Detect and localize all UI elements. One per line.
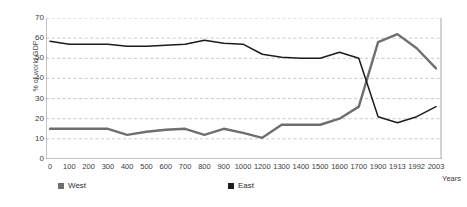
x-tick-label: 1000: [235, 162, 252, 171]
y-tick-label: 50: [22, 54, 44, 62]
legend-label: East: [238, 181, 254, 190]
legend-swatch-icon: [228, 183, 234, 189]
x-tick-label: 1913: [389, 162, 406, 171]
x-tick-label: 800: [198, 162, 211, 171]
legend-item-east[interactable]: East: [228, 181, 254, 190]
x-tick-label: 0: [48, 162, 52, 171]
y-axis-tick-labels: 706050403020100: [18, 0, 44, 207]
x-tick-label: 1500: [312, 162, 329, 171]
plot-area: [46, 18, 442, 159]
x-tick-label: 1900: [370, 162, 387, 171]
chart-legend: WestEast: [58, 181, 388, 195]
y-tick-label: 10: [22, 135, 44, 143]
x-tick-label: 900: [217, 162, 230, 171]
x-tick-label: 300: [102, 162, 115, 171]
y-tick-label: 30: [22, 95, 44, 103]
x-tick-label: 600: [160, 162, 173, 171]
x-tick-label: 1300: [273, 162, 290, 171]
x-tick-label: 200: [82, 162, 95, 171]
y-tick-label: 0: [22, 155, 44, 163]
x-tick-label: 1400: [293, 162, 310, 171]
series-line-east: [50, 40, 436, 123]
x-tick-label: 1992: [408, 162, 425, 171]
x-tick-label: 2003: [428, 162, 445, 171]
y-tick-label: 70: [22, 14, 44, 22]
legend-item-west[interactable]: West: [58, 181, 86, 190]
y-tick-label: 40: [22, 74, 44, 82]
legend-label: West: [68, 181, 86, 190]
legend-swatch-icon: [58, 183, 64, 189]
x-tick-label: 1200: [254, 162, 271, 171]
plot-svg: [46, 18, 442, 159]
x-axis-title: Years: [442, 174, 461, 183]
x-axis-tick-labels: 0100200300400500600700800900100012001300…: [46, 162, 446, 174]
series-line-west: [50, 34, 436, 138]
x-tick-label: 1600: [331, 162, 348, 171]
gdp-share-line-chart: % of world GDP 706050403020100 010020030…: [0, 0, 467, 207]
x-tick-label: 500: [140, 162, 153, 171]
x-tick-label: 400: [121, 162, 134, 171]
x-tick-label: 700: [179, 162, 192, 171]
x-tick-label: 100: [63, 162, 76, 171]
y-tick-label: 60: [22, 34, 44, 42]
x-tick-label: 1700: [350, 162, 367, 171]
y-tick-label: 20: [22, 115, 44, 123]
gridlines: [46, 18, 441, 159]
